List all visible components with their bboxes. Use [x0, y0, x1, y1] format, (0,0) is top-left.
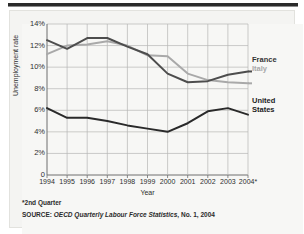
x-tick-label: 1994: [39, 178, 55, 185]
y-tick-label: 8%: [19, 85, 45, 93]
x-tick-label: 1995: [59, 178, 75, 185]
series-line-united-states: [47, 108, 248, 132]
y-axis-title: Unemployment rate: [12, 23, 19, 109]
header-rule-shadow: [8, 6, 298, 7]
legend-item-united-states-line1: United: [252, 96, 298, 105]
x-tick-label: 2000: [160, 178, 176, 185]
y-tick-label: 6%: [19, 106, 45, 114]
x-tick-label: 1999: [140, 178, 156, 185]
y-axis-ticks: 02%4%6%8%10%12%14%: [18, 24, 45, 175]
y-tick-label: 12%: [19, 42, 45, 50]
source-title: OECD Quarterly Labour Force Statistics: [54, 211, 178, 218]
legend: France Italy: [252, 55, 298, 73]
footnote: *2nd Quarter: [22, 199, 61, 206]
x-tick-label: 1998: [120, 178, 136, 185]
x-tick-label: 2004*: [239, 178, 257, 185]
legend-item-france: France: [252, 55, 298, 64]
plot-area: [47, 24, 248, 175]
x-tick-label: 2001: [180, 178, 196, 185]
y-tick-label: 14%: [19, 20, 45, 28]
x-tick-label: 1996: [79, 178, 95, 185]
figure-chart-unemployment-rate: 02%4%6%8%10%12%14% Unemployment rate 199…: [0, 0, 304, 234]
x-tick-label: 2003: [220, 178, 236, 185]
y-tick-label: 4%: [19, 128, 45, 136]
series-lines: [47, 24, 248, 175]
y-tick-label: 2%: [19, 149, 45, 157]
legend-item-italy: Italy: [252, 64, 298, 73]
x-tick-label: 2002: [200, 178, 216, 185]
x-tick-label: 1997: [100, 178, 116, 185]
legend-item-united-states: United States: [252, 96, 298, 114]
source-note: SOURCE: OECD Quarterly Labour Force Stat…: [22, 211, 215, 218]
source-suffix: , No. 1, 2004: [177, 211, 215, 218]
x-axis-title: Year: [47, 189, 248, 196]
legend-item-united-states-line2: States: [252, 105, 298, 114]
y-tick-label: 10%: [19, 63, 45, 71]
source-prefix: SOURCE:: [22, 211, 54, 218]
